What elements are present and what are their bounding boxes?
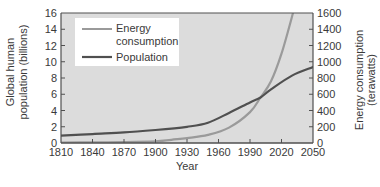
y-right-tick-label: 600	[317, 88, 335, 100]
y-right-tick-label: 200	[317, 121, 335, 133]
y-right-tick-label: 1000	[317, 56, 341, 68]
legend-label-population: Population	[116, 51, 168, 63]
x-tick-label: 1930	[175, 146, 199, 158]
x-tick-label: 1900	[143, 146, 167, 158]
x-tick-label: 2020	[269, 146, 293, 158]
y-right-tick-label: 1600	[317, 7, 341, 19]
y-axis-right-title-line2: (terawatts)	[365, 54, 377, 106]
y-left-tick-label: 14	[45, 23, 57, 35]
y-left-tick-label: 10	[45, 56, 57, 68]
legend: Energy consumption Population	[75, 18, 179, 66]
y-left-tick-label: 16	[45, 7, 57, 19]
y-left-tick-label: 2	[51, 121, 57, 133]
legend-label-energy-line2: consumption	[116, 35, 178, 47]
y-axis-left-title-line1: Global human	[4, 38, 16, 107]
y-left-tick-label: 12	[45, 40, 57, 52]
y-right-tick-label: 800	[317, 72, 335, 84]
y-right-tick-label: 1200	[317, 40, 341, 52]
x-tick-label: 1870	[112, 146, 136, 158]
y-axis-left-title-line2: population (billions)	[17, 25, 29, 120]
y-axis-right-title-line1: Energy consumption	[353, 30, 365, 130]
x-tick-label: 1960	[206, 146, 230, 158]
y-left-tick-label: 8	[51, 72, 57, 84]
x-tick-label: 1840	[80, 146, 104, 158]
y-right-tick-label: 1400	[317, 23, 341, 35]
y-left-tick-label: 6	[51, 88, 57, 100]
x-axis-title: Year	[176, 160, 199, 172]
legend-label-energy-line1: Energy	[116, 22, 151, 34]
x-tick-label: 1990	[238, 146, 262, 158]
y-right-tick-label: 400	[317, 105, 335, 117]
chart: 1810184018701900193019601990202020500246…	[0, 0, 380, 187]
y-left-tick-label: 4	[51, 105, 57, 117]
y-right-tick-label: 0	[317, 137, 323, 149]
y-left-tick-label: 0	[51, 137, 57, 149]
